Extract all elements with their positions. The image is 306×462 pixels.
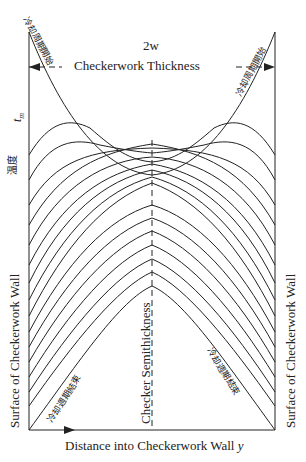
tm-label: tm bbox=[10, 113, 26, 122]
arrow-axis-icon bbox=[64, 426, 75, 434]
arrow-right-icon bbox=[264, 63, 275, 71]
arrow-left-icon bbox=[29, 63, 40, 71]
temperature-label: 温度 bbox=[4, 155, 19, 175]
center-label: Checker Semithickness bbox=[138, 302, 154, 424]
left-wall-label: Surface of Checkerwork Wall bbox=[7, 274, 23, 428]
width-label: 2w bbox=[143, 38, 159, 54]
thickness-label: Checkerwork Thickness bbox=[74, 58, 200, 74]
x-axis-label: Distance into Checkerwork Wall y bbox=[65, 438, 244, 454]
right-wall-label: Surface of Checkerwork Wall bbox=[283, 274, 299, 428]
